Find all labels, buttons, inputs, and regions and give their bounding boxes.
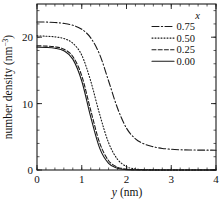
legend: x0.750.500.250.00 (152, 10, 200, 67)
x-tick-label: 0 (34, 173, 40, 185)
x-tick-label: 2 (124, 173, 130, 185)
chart-canvas: 0123401020 x0.750.500.250.00 y(nm) numbe… (0, 0, 224, 200)
legend-title: x (194, 10, 200, 21)
figure-container: 0123401020 x0.750.500.250.00 y(nm) numbe… (0, 0, 224, 200)
legend-label-0-25: 0.25 (177, 44, 195, 55)
y-tick-label: 20 (22, 31, 34, 43)
y-axis-label: number density (nm−3) (1, 35, 15, 140)
legend-label-0-75: 0.75 (177, 21, 195, 32)
legend-label-0-00: 0.00 (177, 56, 195, 67)
y-tick-label: 10 (22, 98, 34, 110)
x-axis-label: y(nm) (111, 186, 143, 199)
x-tick-label: 4 (213, 173, 219, 185)
legend-label-0-50: 0.50 (177, 33, 195, 44)
y-tick-label: 0 (28, 164, 34, 176)
x-tick-label: 1 (79, 173, 85, 185)
x-tick-label: 3 (169, 173, 175, 185)
